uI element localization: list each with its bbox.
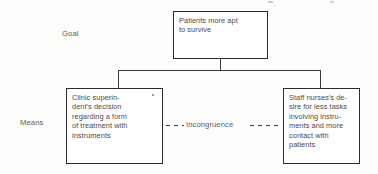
incongruence-dash-right: [250, 125, 282, 126]
row-label-goal: Goal: [62, 29, 79, 38]
row-label-means: Means: [20, 118, 44, 127]
node-means-right: Staff nurses's de- sire for less tasks i…: [283, 88, 360, 164]
scan-speck: [274, 5, 276, 6]
node-means-left: Clinic superin- dent's decision regardin…: [66, 88, 163, 164]
incongruence-label: Incongruence: [186, 120, 233, 129]
scan-speck: [152, 94, 154, 96]
connector-drop-right: [320, 70, 321, 89]
scan-speck: [330, 1, 334, 3]
scan-speck: [268, 1, 273, 3]
diagram-canvas: Goal Means Patients more apt to survive …: [0, 0, 378, 174]
connector-crossbar: [118, 70, 321, 71]
node-goal: Patients more apt to survive: [173, 11, 268, 59]
connector-drop-left: [118, 70, 119, 89]
incongruence-dash-left: [166, 125, 184, 126]
